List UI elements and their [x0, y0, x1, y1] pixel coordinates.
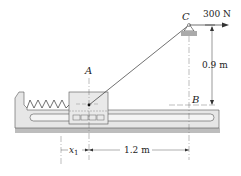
point-b-label: B: [191, 94, 199, 105]
x1-label: x1: [69, 145, 79, 157]
spring: [27, 100, 69, 108]
point-a-label: A: [84, 65, 92, 76]
distance-label: 1.2 m: [124, 145, 150, 155]
height-label: 0.9 m: [202, 60, 228, 70]
mechanics-diagram: C 300 N A B 0.9 m 1.2 m x1: [0, 0, 241, 176]
point-c-label: C: [182, 11, 190, 22]
cable: [89, 25, 189, 105]
pulley-c: [181, 24, 215, 37]
base-frame: [15, 92, 220, 133]
point-a-pin: [88, 104, 91, 107]
force-label: 300 N: [203, 9, 231, 19]
slider-block: [69, 92, 108, 124]
force-arrow: [205, 23, 229, 28]
